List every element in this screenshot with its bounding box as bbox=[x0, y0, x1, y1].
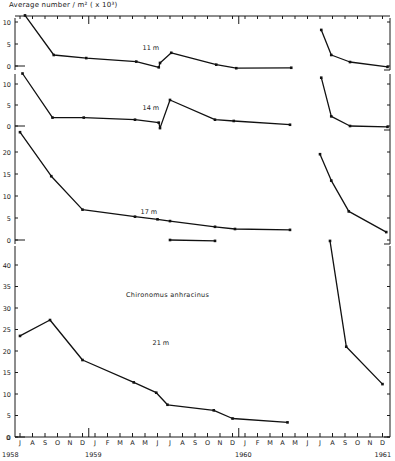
svg-text:S: S bbox=[193, 439, 197, 447]
x-axis: JASONDJFMAMJJASONDJFMAMJJASOND0195819591… bbox=[2, 428, 391, 459]
svg-text:Chironomus anhracinus: Chironomus anhracinus bbox=[126, 291, 209, 299]
svg-text:0: 0 bbox=[7, 63, 11, 71]
svg-text:5: 5 bbox=[7, 41, 11, 49]
svg-text:A: A bbox=[280, 439, 285, 447]
svg-text:J: J bbox=[18, 439, 21, 447]
axes: 05100510051015200510152025303540 bbox=[3, 16, 390, 442]
svg-text:F: F bbox=[256, 439, 260, 447]
panel-labels: 11 m14 m17 m21 mChironomus anhracinus bbox=[126, 44, 209, 347]
svg-text:N: N bbox=[218, 439, 223, 447]
svg-text:J: J bbox=[168, 439, 171, 447]
svg-text:15: 15 bbox=[3, 171, 11, 179]
svg-text:40: 40 bbox=[3, 262, 11, 270]
svg-text:N: N bbox=[368, 439, 373, 447]
svg-text:15: 15 bbox=[3, 369, 11, 377]
series-lines bbox=[19, 14, 389, 424]
svg-text:J: J bbox=[318, 439, 321, 447]
svg-text:11 m: 11 m bbox=[143, 44, 160, 52]
svg-text:M: M bbox=[117, 439, 123, 447]
svg-text:0: 0 bbox=[7, 123, 11, 131]
svg-text:D: D bbox=[230, 439, 235, 447]
svg-text:J: J bbox=[156, 439, 159, 447]
svg-text:N: N bbox=[68, 439, 73, 447]
svg-text:F: F bbox=[106, 439, 110, 447]
svg-text:5: 5 bbox=[7, 102, 11, 110]
svg-text:O: O bbox=[355, 439, 360, 447]
svg-text:5: 5 bbox=[7, 412, 11, 420]
svg-text:J: J bbox=[306, 439, 309, 447]
svg-text:17 m: 17 m bbox=[141, 208, 158, 216]
svg-text:O: O bbox=[55, 439, 60, 447]
svg-text:1959: 1959 bbox=[85, 451, 102, 459]
svg-text:20: 20 bbox=[3, 149, 11, 157]
svg-text:S: S bbox=[43, 439, 47, 447]
svg-text:1960: 1960 bbox=[235, 451, 252, 459]
svg-text:J: J bbox=[243, 439, 246, 447]
svg-text:21 m: 21 m bbox=[153, 339, 170, 347]
svg-text:D: D bbox=[80, 439, 85, 447]
svg-text:25: 25 bbox=[3, 326, 11, 334]
svg-text:20: 20 bbox=[3, 348, 11, 356]
svg-text:M: M bbox=[292, 439, 298, 447]
svg-text:10: 10 bbox=[3, 391, 11, 399]
chironomus-density-chart: 05100510051015200510152025303540 11 m14 … bbox=[0, 0, 395, 461]
svg-text:14 m: 14 m bbox=[143, 104, 160, 112]
svg-text:1961: 1961 bbox=[375, 451, 392, 459]
svg-text:35: 35 bbox=[3, 283, 11, 291]
svg-text:0: 0 bbox=[6, 434, 10, 442]
svg-text:A: A bbox=[130, 439, 135, 447]
svg-text:D: D bbox=[380, 439, 385, 447]
svg-text:A: A bbox=[330, 439, 335, 447]
svg-text:10: 10 bbox=[3, 81, 11, 89]
svg-text:J: J bbox=[93, 439, 96, 447]
svg-text:10: 10 bbox=[3, 19, 11, 27]
svg-text:M: M bbox=[142, 439, 148, 447]
svg-text:S: S bbox=[343, 439, 347, 447]
svg-text:A: A bbox=[180, 439, 185, 447]
svg-text:1958: 1958 bbox=[2, 451, 19, 459]
svg-text:M: M bbox=[267, 439, 273, 447]
svg-text:5: 5 bbox=[7, 215, 11, 223]
svg-text:30: 30 bbox=[3, 305, 11, 313]
svg-text:0: 0 bbox=[7, 237, 11, 245]
svg-text:10: 10 bbox=[3, 193, 11, 201]
svg-text:O: O bbox=[205, 439, 210, 447]
svg-text:A: A bbox=[30, 439, 35, 447]
